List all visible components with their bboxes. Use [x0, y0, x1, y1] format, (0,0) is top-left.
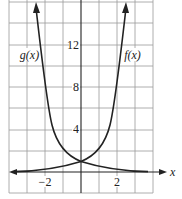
g-label: g(x) [20, 48, 39, 62]
ytick-4: 4 [73, 122, 79, 136]
xtick-neg2: −2 [39, 175, 52, 189]
x-tick-labels: −2 2 [38, 175, 121, 189]
curve-g-smooth [36, 8, 148, 172]
x-axis-right-arrow-icon [159, 169, 167, 175]
curve-f-smooth [14, 8, 126, 172]
f-label: f(x) [124, 48, 141, 62]
x-axis-label: x [169, 165, 176, 179]
ytick-8: 8 [73, 80, 79, 94]
graph: 12 8 4 −2 2 x g(x) f(x) [0, 0, 182, 199]
g-arrow-icon [33, 2, 40, 13]
ytick-12: 12 [67, 38, 79, 52]
f-arrow-icon [122, 2, 129, 13]
xtick-2: 2 [114, 175, 120, 189]
